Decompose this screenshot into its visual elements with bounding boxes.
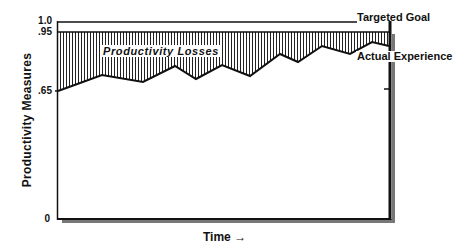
productivity-losses-label: Productivity Losses [101, 45, 221, 57]
x-axis-label: Time → [203, 230, 246, 244]
targeted-goal-label: Targeted Goal [357, 12, 430, 23]
chart-plot [0, 0, 471, 248]
y-axis-label: Productivity Measures [20, 53, 34, 187]
actual-experience-label: Actual Experience [356, 51, 453, 62]
y-tick-1: 1.0 [22, 16, 52, 26]
y-tick-095: .95 [22, 27, 52, 37]
productivity-chart: 1.0 .95 .65 0 Productivity Measures Prod… [0, 0, 471, 248]
y-tick-0: 0 [20, 214, 50, 224]
box-shadow-right [392, 34, 395, 223]
losses-area [58, 32, 389, 91]
